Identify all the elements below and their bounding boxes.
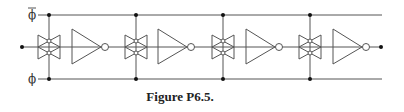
phi-bar-label: ϕ [28, 8, 36, 22]
input-node [20, 45, 24, 49]
phi-label: ϕ [28, 72, 36, 86]
output-node [379, 45, 383, 49]
figure-caption: Figure P6.5. [0, 89, 360, 105]
